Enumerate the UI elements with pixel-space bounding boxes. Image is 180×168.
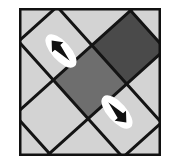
checkerboard-diagram	[0, 0, 180, 168]
rotated-tile-field	[0, 0, 180, 168]
tiling-layer	[0, 0, 180, 168]
figure-root: Rotated checkerboard tiling with two dir…	[0, 0, 180, 168]
